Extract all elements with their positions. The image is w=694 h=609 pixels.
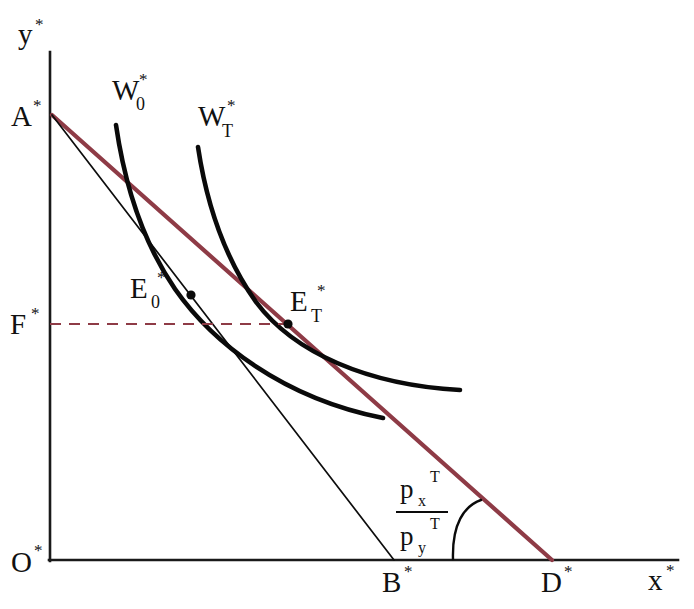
curve-label-wt-subscript: T [222,121,233,141]
x-axis-label-superscript: * [666,561,675,580]
point-label-f-superscript: * [31,304,40,323]
price-ratio-denominator-base: p [400,521,414,551]
point-label-e0: E [130,272,148,304]
initial-budget-line [52,115,394,560]
point-label-et: E [290,285,308,317]
price-ratio-denominator-subscript: y [418,539,426,557]
price-ratio-label: p x T p y T [396,468,448,557]
y-axis-label-superscript: * [35,15,44,34]
price-ratio-denominator-superscript: T [430,515,440,532]
point-label-et-superscript: * [317,281,326,300]
diagram-canvas: y * x * O * A * F * B * D * W 0 * W T * … [0,0,694,609]
point-label-b: B [382,566,401,598]
point-label-d-superscript: * [564,562,573,581]
indifference-curve-figure: y * x * O * A * F * B * D * W 0 * W T * … [0,0,694,609]
curve-label-w0-subscript: 0 [136,94,145,114]
point-label-d: D [541,566,562,598]
point-label-a: A [11,100,32,132]
point-label-e0-superscript: * [157,268,166,287]
tangency-point-e0 [186,290,195,299]
curve-label-wt-superscript: * [227,96,236,115]
price-ratio-numerator-subscript: x [418,492,426,509]
origin-label: O [11,546,32,578]
price-ratio-numerator-base: p [400,474,414,504]
price-ratio-numerator-superscript: T [430,468,440,485]
x-axis-label: x [648,564,663,596]
point-label-e0-subscript: 0 [151,292,160,312]
origin-label-superscript: * [34,541,43,560]
angle-arc [453,500,481,559]
point-label-et-subscript: T [311,306,322,326]
curve-label-w0-superscript: * [139,70,148,89]
tangency-point-et [283,319,292,328]
point-label-b-superscript: * [404,562,413,581]
y-axis-label: y [18,18,33,50]
point-label-f: F [10,308,26,340]
point-label-a-superscript: * [33,96,42,115]
